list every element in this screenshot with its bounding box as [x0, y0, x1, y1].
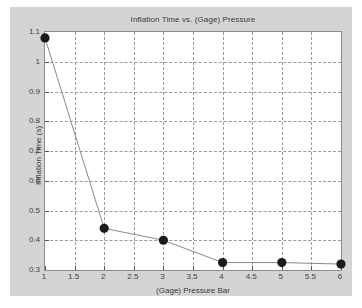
y-tick-label: 0.5 — [18, 205, 40, 214]
x-tick-label: 4 — [219, 272, 223, 281]
x-tick-label: 1.5 — [68, 272, 79, 281]
data-point-marker — [159, 236, 168, 245]
y-tick-label: 0.9 — [18, 86, 40, 95]
data-line — [45, 38, 341, 264]
x-axis-label: (Gage) Pressure Bar — [44, 286, 342, 295]
x-tick-label: 5 — [279, 272, 283, 281]
x-tick-label: 2.5 — [127, 272, 138, 281]
x-tick-label: 3.5 — [186, 272, 197, 281]
y-tick-label: 0.3 — [18, 265, 40, 274]
y-tick-label: 0.7 — [18, 146, 40, 155]
data-point-marker — [277, 258, 286, 267]
x-tick-label: 5.5 — [305, 272, 316, 281]
y-tick-label: 1.1 — [18, 27, 40, 36]
chart-title: Inflation Time vs. (Gage) Pressure — [44, 15, 342, 24]
data-point-marker — [336, 259, 345, 268]
data-point-marker — [100, 224, 109, 233]
x-tick-label: 2 — [101, 272, 105, 281]
x-tick-label: 4.5 — [246, 272, 257, 281]
x-tick-label: 6 — [338, 272, 342, 281]
data-point-marker — [40, 33, 49, 42]
plot-inner — [45, 32, 341, 270]
data-series-layer — [45, 32, 341, 270]
figure-canvas: Inflation Time vs. (Gage) Pressure (Gage… — [10, 7, 352, 296]
x-tick-label: 3 — [160, 272, 164, 281]
y-tick-label: 0.8 — [18, 116, 40, 125]
data-point-marker — [218, 258, 227, 267]
plot-area — [44, 31, 342, 271]
y-axis-label: Inflation Time (s) — [34, 96, 43, 216]
x-tick-label: 1 — [42, 272, 46, 281]
y-tick-label: 1 — [18, 56, 40, 65]
y-tick-label: 0.6 — [18, 175, 40, 184]
y-tick-label: 0.4 — [18, 235, 40, 244]
